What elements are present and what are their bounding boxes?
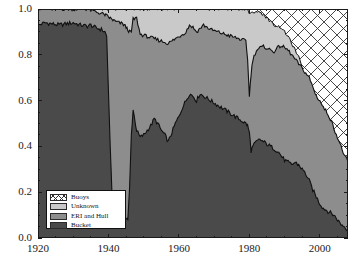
y-tick-major-4 [38,54,42,55]
legend-swatch-buoys [50,194,67,201]
y-tick-minor-right [346,226,348,227]
y-tick-minor [38,157,40,158]
x-tick-minor [284,236,285,238]
y-tick-minor-right [346,169,348,170]
y-tick-label-5: 1.0 [0,3,32,14]
legend-label-bucket: Bucket [71,222,91,229]
x-tick-minor-top [143,9,144,11]
x-tick-label-2: 1960 [159,243,199,254]
x-tick-minor-top [231,9,232,11]
x-tick-major-4 [319,234,320,238]
y-tick-major-5 [38,9,42,10]
x-tick-minor-top [90,9,91,11]
y-tick-minor-right [346,31,348,32]
y-tick-major-right-0 [344,238,348,239]
y-tick-minor-right [346,146,348,147]
y-tick-minor [38,112,40,113]
y-tick-minor [38,134,40,135]
y-tick-minor [38,169,40,170]
y-tick-minor [38,77,40,78]
x-tick-minor-top [266,9,267,11]
x-tick-label-3: 1980 [229,243,269,254]
y-tick-minor [38,31,40,32]
y-tick-major-right-3 [344,100,348,101]
x-tick-minor [196,236,197,238]
x-tick-minor [73,236,74,238]
y-tick-minor [38,43,40,44]
x-tick-minor-top [55,9,56,11]
x-tick-major-3 [249,234,250,238]
figure: Buoys Unknown ERI and Hull Bucket 0.00.2… [0,0,362,271]
y-tick-minor-right [346,180,348,181]
x-tick-minor-top [284,9,285,11]
x-tick-label-0: 1920 [18,243,58,254]
x-tick-label-4: 2000 [300,243,340,254]
y-tick-major-right-1 [344,192,348,193]
x-tick-minor-top [214,9,215,11]
legend-swatch-eri-and-hull [50,213,67,220]
x-tick-minor [266,236,267,238]
x-tick-minor-top [196,9,197,11]
legend-item-eri-and-hull: ERI and Hull [50,212,123,220]
legend-label-buoys: Buoys [71,194,89,201]
legend-box: Buoys Unknown ERI and Hull Bucket [46,190,126,229]
x-tick-minor [55,236,56,238]
y-tick-minor [38,203,40,204]
y-tick-minor-right [346,203,348,204]
y-tick-minor [38,20,40,21]
legend-item-buoys: Buoys [50,193,123,201]
legend-label-eri-and-hull: ERI and Hull [71,213,108,220]
y-tick-major-1 [38,192,42,193]
y-tick-major-right-4 [344,54,348,55]
x-tick-minor-top [302,9,303,11]
x-tick-minor [126,236,127,238]
y-tick-major-3 [38,100,42,101]
x-tick-minor [231,236,232,238]
y-tick-minor [38,89,40,90]
y-tick-major-right-5 [344,9,348,10]
y-tick-minor-right [346,134,348,135]
x-tick-major-top-3 [249,9,250,13]
y-tick-minor-right [346,215,348,216]
y-tick-minor [38,215,40,216]
y-tick-minor-right [346,20,348,21]
y-tick-minor-right [346,112,348,113]
y-tick-label-2: 0.4 [0,140,32,151]
x-tick-major-top-0 [38,9,39,13]
y-tick-label-1: 0.2 [0,186,32,197]
x-tick-major-top-4 [319,9,320,13]
x-tick-label-1: 1940 [88,243,128,254]
y-tick-minor [38,146,40,147]
x-tick-minor [214,236,215,238]
y-tick-minor-right [346,77,348,78]
y-tick-major-0 [38,238,42,239]
x-tick-minor [143,236,144,238]
x-tick-minor [337,236,338,238]
x-tick-major-0 [38,234,39,238]
y-tick-minor-right [346,66,348,67]
y-tick-minor-right [346,43,348,44]
x-tick-major-2 [178,234,179,238]
legend-label-unknown: Unknown [71,203,99,210]
x-tick-minor-top [73,9,74,11]
y-tick-minor-right [346,123,348,124]
y-tick-minor [38,66,40,67]
legend-item-bucket: Bucket [50,222,123,230]
x-tick-minor [161,236,162,238]
y-tick-label-3: 0.6 [0,95,32,106]
y-tick-minor [38,123,40,124]
y-tick-minor-right [346,89,348,90]
y-tick-minor [38,180,40,181]
x-tick-minor-top [337,9,338,11]
y-tick-minor [38,226,40,227]
x-tick-minor [302,236,303,238]
legend-swatch-unknown [50,203,67,210]
x-tick-major-top-1 [108,9,109,13]
x-tick-major-1 [108,234,109,238]
y-tick-minor-right [346,157,348,158]
legend-swatch-bucket [50,222,67,229]
x-tick-minor-top [161,9,162,11]
x-tick-minor [90,236,91,238]
x-tick-minor-top [126,9,127,11]
y-tick-label-4: 0.8 [0,49,32,60]
